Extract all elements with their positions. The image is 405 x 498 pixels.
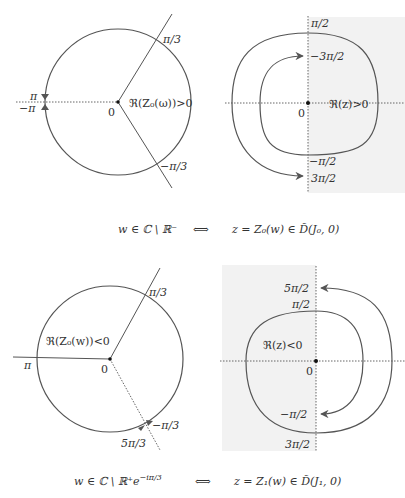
panel-bottom-right: 5π/2 π/2 −π/2 3π/2 0 ℜ(z)<0 [220,265,405,451]
label-pi-over-2: π/2 [310,17,329,30]
label-pi: π [23,359,32,372]
label-3pi-over-2: 3π/2 [285,438,310,451]
label-region: ℜ(Z₀(w))<0 [46,335,110,348]
panel-top-left: π/3 −π/3 π −π 0 ℜ(Z₀(ω))>0 [16,14,192,188]
label-pi-over-3: π/3 [148,286,167,299]
inner-contour [316,311,363,414]
label-5pi-over-3: 5π/3 [121,437,146,450]
equivalence-arrow-icon: ⟺ [193,223,209,236]
origin-dot [116,100,120,104]
outer-arc-contour [316,288,392,433]
label-pi-over-3: π/3 [162,33,181,46]
origin-dot [314,359,318,363]
label-minus-pi: −π [19,102,36,115]
caption-bottom-right: z = Z₁(w) ∈ D̃(J₁, 0) [233,475,341,488]
equivalence-arrow-icon: ⟺ [195,475,211,488]
label-minus-pi-over-3: −π/3 [160,160,187,173]
arrow-minus-pi-icon [41,104,49,110]
caption-bottom-left: w ∈ ℂ \ ℝ⁺e−iπ/3 [74,473,162,488]
caption-bottom-left-sup: −iπ/3 [139,473,161,482]
label-region: ℜ(z)<0 [263,339,303,352]
label-minus-pi-over-2: −π/2 [280,408,307,421]
label-minus-3pi-over-2: −3π/2 [310,50,344,63]
ray-pi-over-3 [110,268,160,359]
label-origin: 0 [298,107,305,120]
panel-bottom-left: π/3 −π/3 5π/3 π 0 ℜ(Z₀(w))<0 [13,268,183,450]
label-5pi-over-2: 5π/2 [284,282,309,295]
arrow-pi-icon [41,94,49,100]
caption-top: w ∈ ℂ \ ℝ⁻ ⟺ z = Z₀(w) ∈ D̃(J₀, 0) [118,223,339,236]
ray-pi-over-3 [118,14,172,102]
label-region: ℜ(z)>0 [329,98,369,111]
label-origin: 0 [101,363,108,376]
label-region: ℜ(Z₀(ω))>0 [129,97,192,110]
label-pi-over-2: π/2 [291,298,310,311]
label-minus-pi-over-3: −π/3 [152,419,179,432]
diagram-canvas: π/3 −π/3 π −π 0 ℜ(Z₀(ω))>0 π/2 −3π/2 −π/… [0,0,405,498]
origin-dot [108,357,112,361]
label-origin: 0 [108,106,115,119]
caption-top-right: z = Z₀(w) ∈ D̃(J₀, 0) [231,223,339,236]
label-origin: 0 [306,365,313,378]
origin-dot [306,101,310,105]
caption-bottom: w ∈ ℂ \ ℝ⁺e−iπ/3 ⟺ z = Z₁(w) ∈ D̃(J₁, 0) [74,473,341,488]
label-minus-pi-over-2: −π/2 [309,155,336,168]
label-3pi-over-2: 3π/2 [311,172,336,185]
caption-top-left: w ∈ ℂ \ ℝ⁻ [118,223,177,236]
inner-contour [260,56,308,155]
caption-bottom-left-main: w ∈ ℂ \ ℝ⁺e [74,475,140,488]
panel-top-right: π/2 −3π/2 −π/2 3π/2 0 ℜ(z)>0 [225,16,405,193]
